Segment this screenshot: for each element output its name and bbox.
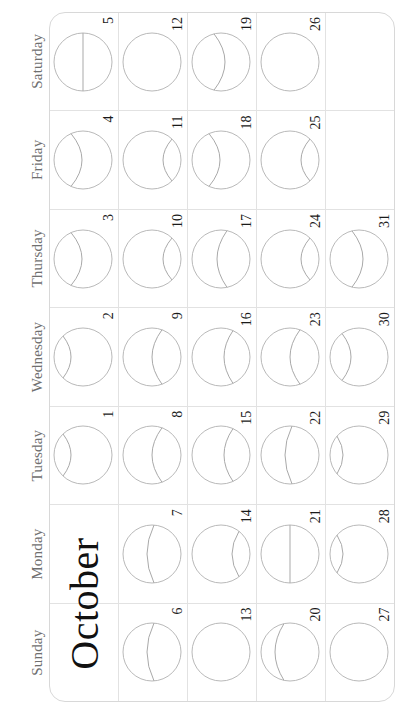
moon-phase-glyph	[190, 129, 252, 191]
moon-phase-glyph	[259, 523, 321, 585]
day-number: 1	[102, 411, 116, 418]
day-number: 18	[240, 115, 254, 129]
moon-phase-glyph	[328, 523, 390, 585]
calendar-week-row: 13141516171819	[188, 13, 257, 701]
day-number: 3	[102, 214, 116, 221]
moon-phase-glyph	[328, 228, 390, 290]
moon-phase-glyph	[190, 424, 252, 486]
day-number: 11	[171, 115, 185, 128]
calendar-day-cell[interactable]: 5	[50, 13, 118, 110]
calendar-week-row: October12345	[50, 13, 119, 701]
calendar-day-cell[interactable]: 12	[119, 13, 187, 110]
calendar-day-cell[interactable]: 24	[257, 209, 325, 307]
moon-phase-glyph	[121, 424, 183, 486]
moon-phase-glyph	[190, 326, 252, 388]
day-name-thursday: Thursday	[19, 209, 49, 308]
moon-phase-glyph	[328, 326, 390, 388]
day-number: 12	[171, 17, 185, 31]
moon-phase-glyph	[259, 31, 321, 93]
day-number: 29	[378, 411, 392, 425]
calendar-day-cell[interactable]: 22	[257, 406, 325, 504]
moon-phase-glyph	[52, 31, 114, 93]
calendar-day-cell[interactable]: 13	[188, 603, 256, 701]
moon-phase-glyph	[190, 621, 252, 683]
calendar-day-cell[interactable]: 28	[326, 504, 394, 602]
calendar-week-row: 20212223242526	[257, 13, 326, 701]
calendar-day-cell[interactable]: 26	[257, 13, 325, 110]
day-number: 20	[309, 608, 323, 622]
day-name-friday: Friday	[19, 111, 49, 210]
calendar-day-cell[interactable]: 6	[119, 603, 187, 701]
calendar-day-cell[interactable]: 8	[119, 406, 187, 504]
moon-phase-glyph	[259, 228, 321, 290]
moon-phase-glyph	[190, 523, 252, 585]
moon-phase-glyph	[121, 228, 183, 290]
day-name-tuesday: Tuesday	[19, 406, 49, 505]
calendar-sheet: Sunday Monday Tuesday Wednesday Thursday…	[19, 12, 395, 702]
calendar-empty-cell	[50, 504, 118, 602]
moon-phase-glyph	[52, 424, 114, 486]
moon-phase-glyph	[190, 228, 252, 290]
moon-phase-glyph	[259, 129, 321, 191]
day-number: 24	[309, 214, 323, 228]
calendar-day-cell[interactable]: 19	[188, 13, 256, 110]
day-number: 19	[240, 17, 254, 31]
calendar-day-cell[interactable]: 14	[188, 504, 256, 602]
calendar-day-cell[interactable]: 31	[326, 209, 394, 307]
calendar-day-cell[interactable]: 21	[257, 504, 325, 602]
moon-phase-glyph	[328, 424, 390, 486]
calendar-day-cell[interactable]: 23	[257, 307, 325, 405]
calendar-week-row: 2728293031	[326, 13, 394, 701]
calendar-day-cell[interactable]: 30	[326, 307, 394, 405]
day-number: 21	[309, 509, 323, 523]
calendar-day-cell[interactable]: 27	[326, 603, 394, 701]
calendar-day-cell[interactable]: 3	[50, 209, 118, 307]
calendar-day-cell[interactable]: 1	[50, 406, 118, 504]
day-number: 30	[378, 312, 392, 326]
calendar-day-cell[interactable]: 25	[257, 110, 325, 208]
day-name-sunday: Sunday	[19, 603, 49, 702]
day-number: 17	[240, 214, 254, 228]
day-number: 23	[309, 312, 323, 326]
moon-phase-glyph	[328, 621, 390, 683]
calendar-day-cell[interactable]: 9	[119, 307, 187, 405]
day-number: 27	[378, 608, 392, 622]
moon-phase-glyph	[259, 326, 321, 388]
day-number: 31	[378, 214, 392, 228]
calendar-empty-cell	[326, 110, 394, 208]
day-number: 15	[240, 411, 254, 425]
day-number: 4	[102, 115, 116, 122]
day-number: 5	[102, 17, 116, 24]
calendar-day-cell[interactable]: 29	[326, 406, 394, 504]
day-number: 14	[240, 509, 254, 523]
calendar-day-cell[interactable]: 11	[119, 110, 187, 208]
day-number: 28	[378, 509, 392, 523]
calendar-day-cell[interactable]: 2	[50, 307, 118, 405]
calendar-day-cell[interactable]: 17	[188, 209, 256, 307]
calendar-day-cell[interactable]: 7	[119, 504, 187, 602]
day-number: 9	[171, 312, 185, 319]
calendar-day-cell[interactable]: 10	[119, 209, 187, 307]
calendar-day-cell[interactable]: 18	[188, 110, 256, 208]
moon-phase-glyph	[52, 326, 114, 388]
day-number: 25	[309, 115, 323, 129]
calendar-page: Sunday Monday Tuesday Wednesday Thursday…	[0, 0, 414, 714]
day-name-wednesday: Wednesday	[19, 308, 49, 407]
calendar-day-cell[interactable]: 4	[50, 110, 118, 208]
day-number: 2	[102, 312, 116, 319]
moon-phase-glyph	[52, 228, 114, 290]
calendar-day-cell[interactable]: 16	[188, 307, 256, 405]
day-number: 16	[240, 312, 254, 326]
day-name-monday: Monday	[19, 505, 49, 604]
moon-phase-glyph	[121, 523, 183, 585]
day-number: 6	[171, 608, 185, 615]
moon-phase-glyph	[121, 31, 183, 93]
moon-phase-glyph	[121, 326, 183, 388]
day-number: 10	[171, 214, 185, 228]
rotation-stage: Sunday Monday Tuesday Wednesday Thursday…	[0, 0, 414, 714]
day-number: 26	[309, 17, 323, 31]
calendar-day-cell[interactable]: 15	[188, 406, 256, 504]
calendar-day-cell[interactable]: 20	[257, 603, 325, 701]
day-number: 7	[171, 509, 185, 516]
day-name-header-row: Sunday Monday Tuesday Wednesday Thursday…	[19, 12, 49, 702]
